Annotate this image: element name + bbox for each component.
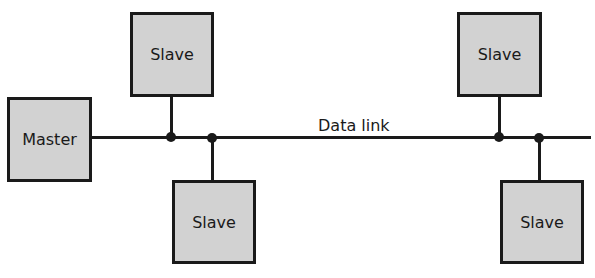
slave-label: Slave — [192, 213, 236, 232]
data-link-label: Data link — [318, 116, 390, 135]
slave-node-top-left: Slave — [130, 12, 214, 97]
slave-node-top-right: Slave — [457, 12, 542, 97]
slave-label: Slave — [150, 45, 194, 64]
slave-node-bottom-right: Slave — [500, 180, 584, 264]
bus-topology-diagram: Data link Master Slave Slave Slave Slave — [0, 0, 595, 278]
slave-label: Slave — [478, 45, 522, 64]
junction-dot-top-left — [166, 132, 176, 142]
master-node: Master — [7, 97, 92, 182]
connector-bottom-left — [211, 137, 214, 181]
junction-dot-bottom-left — [207, 133, 217, 143]
master-label: Master — [22, 130, 77, 149]
junction-dot-bottom-right — [534, 133, 544, 143]
slave-label: Slave — [520, 213, 564, 232]
connector-bottom-right — [538, 137, 541, 181]
slave-node-bottom-left: Slave — [172, 180, 256, 264]
junction-dot-top-right — [494, 132, 504, 142]
